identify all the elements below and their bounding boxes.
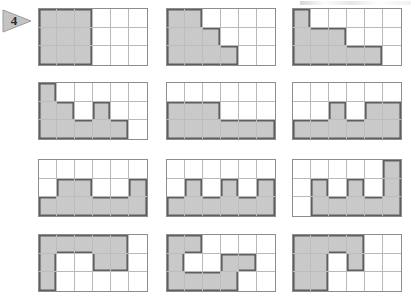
grid-cell-shaded[interactable] [167, 272, 185, 291]
grid-cell-empty[interactable] [239, 179, 257, 198]
grid-cell-shaded[interactable] [203, 120, 221, 139]
grid-cell-shaded[interactable] [39, 235, 57, 254]
grid-cell-shaded[interactable] [203, 197, 221, 216]
grid-cell-shaded[interactable] [383, 102, 401, 121]
grid-cell-shaded[interactable] [39, 197, 57, 216]
grid-cell-empty[interactable] [293, 83, 311, 102]
grid-cell-empty[interactable] [111, 179, 129, 198]
grid-cell-empty[interactable] [75, 254, 93, 273]
grid-cell-empty[interactable] [257, 235, 275, 254]
grid-cell-empty[interactable] [257, 46, 275, 65]
grid-cell-shaded[interactable] [311, 28, 329, 47]
grid-cell-empty[interactable] [129, 9, 147, 28]
grid-cell-empty[interactable] [311, 9, 329, 28]
grid-cell-empty[interactable] [365, 28, 383, 47]
grid-cell-empty[interactable] [293, 102, 311, 121]
grid-cell-shaded[interactable] [93, 254, 111, 273]
grid-cell-shaded[interactable] [221, 254, 239, 273]
grid-cell-empty[interactable] [57, 160, 75, 179]
grid-cell-shaded[interactable] [347, 254, 365, 273]
grid-cell-shaded[interactable] [329, 120, 347, 139]
grid-cell-shaded[interactable] [383, 179, 401, 198]
grid-cell-shaded[interactable] [221, 179, 239, 198]
grid-cell-shaded[interactable] [185, 120, 203, 139]
grid-cell-empty[interactable] [75, 83, 93, 102]
grid-cell-shaded[interactable] [111, 254, 129, 273]
grid-cell-empty[interactable] [383, 254, 401, 273]
grid-cell-shaded[interactable] [365, 120, 383, 139]
grid-cell-shaded[interactable] [311, 179, 329, 198]
grid-cell-empty[interactable] [383, 83, 401, 102]
grid-cell-shaded[interactable] [347, 197, 365, 216]
grid-cell-shaded[interactable] [185, 235, 203, 254]
grid-cell-empty[interactable] [221, 28, 239, 47]
grid-cell-shaded[interactable] [111, 197, 129, 216]
grid-cell-shaded[interactable] [185, 197, 203, 216]
grid-cell-empty[interactable] [185, 83, 203, 102]
grid-cell-empty[interactable] [311, 160, 329, 179]
grid-cell-empty[interactable] [257, 272, 275, 291]
grid-cell-empty[interactable] [221, 235, 239, 254]
grid-cell-empty[interactable] [365, 272, 383, 291]
grid-cell-empty[interactable] [239, 83, 257, 102]
grid-cell-empty[interactable] [111, 272, 129, 291]
grid-cell-shaded[interactable] [185, 28, 203, 47]
grid-cell-empty[interactable] [383, 28, 401, 47]
grid-cell-shaded[interactable] [203, 28, 221, 47]
grid-cell-shaded[interactable] [57, 102, 75, 121]
grid-cell-empty[interactable] [365, 160, 383, 179]
grid-cell-shaded[interactable] [57, 179, 75, 198]
grid-cell-empty[interactable] [365, 9, 383, 28]
grid-cell-empty[interactable] [311, 102, 329, 121]
grid-cell-shaded[interactable] [93, 120, 111, 139]
grid-cell-empty[interactable] [329, 272, 347, 291]
grid-cell-shaded[interactable] [75, 120, 93, 139]
grid-cell-empty[interactable] [347, 9, 365, 28]
grid-cell-empty[interactable] [129, 28, 147, 47]
grid-cell-shaded[interactable] [129, 197, 147, 216]
grid-cell-empty[interactable] [203, 179, 221, 198]
grid-cell-shaded[interactable] [365, 102, 383, 121]
grid-cell-empty[interactable] [185, 160, 203, 179]
grid-cell-shaded[interactable] [239, 197, 257, 216]
grid-cell-empty[interactable] [221, 9, 239, 28]
grid-cell-empty[interactable] [239, 102, 257, 121]
grid-cell-empty[interactable] [111, 83, 129, 102]
grid-cell-empty[interactable] [75, 102, 93, 121]
grid-cell-empty[interactable] [57, 83, 75, 102]
grid-cell-shaded[interactable] [39, 120, 57, 139]
grid-cell-empty[interactable] [129, 254, 147, 273]
grid-cell-shaded[interactable] [93, 102, 111, 121]
grid-cell-empty[interactable] [221, 160, 239, 179]
grid-cell-shaded[interactable] [39, 28, 57, 47]
grid-cell-shaded[interactable] [167, 102, 185, 121]
grid-cell-empty[interactable] [129, 235, 147, 254]
grid-cell-shaded[interactable] [347, 179, 365, 198]
grid-cell-empty[interactable] [39, 179, 57, 198]
grid-cell-shaded[interactable] [329, 235, 347, 254]
grid-cell-empty[interactable] [167, 160, 185, 179]
grid-cell-shaded[interactable] [383, 197, 401, 216]
grid-cell-empty[interactable] [39, 160, 57, 179]
grid-cell-shaded[interactable] [75, 9, 93, 28]
grid-cell-empty[interactable] [383, 235, 401, 254]
grid-cell-shaded[interactable] [329, 46, 347, 65]
grid-cell-empty[interactable] [57, 272, 75, 291]
grid-cell-shaded[interactable] [365, 197, 383, 216]
grid-cell-empty[interactable] [185, 254, 203, 273]
grid-cell-empty[interactable] [93, 46, 111, 65]
grid-cell-shaded[interactable] [39, 46, 57, 65]
grid-cell-empty[interactable] [111, 102, 129, 121]
grid-cell-shaded[interactable] [167, 9, 185, 28]
grid-cell-shaded[interactable] [185, 272, 203, 291]
grid-cell-empty[interactable] [329, 160, 347, 179]
grid-cell-shaded[interactable] [293, 28, 311, 47]
grid-cell-shaded[interactable] [239, 120, 257, 139]
grid-cell-empty[interactable] [239, 235, 257, 254]
grid-cell-shaded[interactable] [293, 254, 311, 273]
grid-cell-shaded[interactable] [293, 235, 311, 254]
grid-cell-empty[interactable] [203, 254, 221, 273]
grid-cell-shaded[interactable] [57, 46, 75, 65]
grid-cell-empty[interactable] [257, 160, 275, 179]
grid-cell-shaded[interactable] [221, 197, 239, 216]
